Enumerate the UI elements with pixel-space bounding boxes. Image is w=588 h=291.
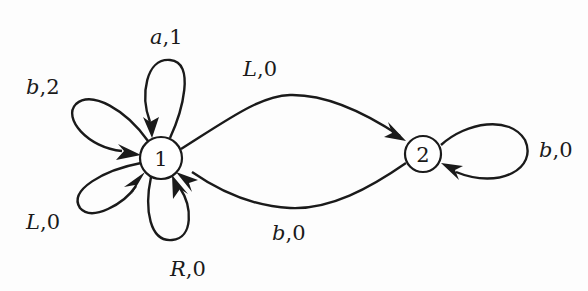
- arrowhead-icon: [441, 163, 463, 180]
- state-node-1[interactable]: 1: [140, 137, 182, 179]
- state-node-2[interactable]: 2: [405, 136, 441, 172]
- loop-edge-2-b0: [441, 124, 528, 180]
- loop-edge-R0: [148, 172, 198, 240]
- label-R0: R,0: [169, 257, 206, 281]
- arrowhead-icon: [384, 122, 406, 141]
- label-b2: b,2: [26, 75, 60, 99]
- arrowhead-icon: [124, 172, 145, 194]
- loop-edge-L0: [78, 163, 145, 213]
- state-node-1-label: 1: [154, 147, 167, 171]
- arrowhead-icon: [116, 144, 141, 160]
- loop-edge-b2: [72, 99, 148, 160]
- state-diagram: 1 2 a,1 b,2 L,0 R,0 L,0 b,0 b,0: [0, 0, 588, 291]
- loop-edge-a1: [143, 60, 185, 138]
- arrowhead-icon: [143, 117, 159, 138]
- label-L0-loop: L,0: [25, 210, 60, 234]
- label-edge-2-1: b,0: [272, 221, 306, 245]
- edge-2-to-1: [192, 163, 406, 208]
- label-edge-1-2: L,0: [242, 57, 277, 81]
- label-a1: a,1: [150, 25, 183, 49]
- state-node-2-label: 2: [416, 143, 429, 167]
- edge-1-to-2: [181, 95, 406, 149]
- label-loop-2-b0: b,0: [539, 138, 573, 162]
